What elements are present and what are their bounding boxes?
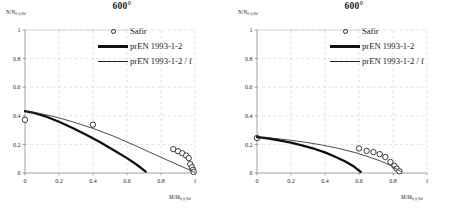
chart-panel-right: 600° N/Nfi,θ,Rd M/Mfi,θ,Rd 00.20.40.60.8…: [232, 0, 464, 216]
thick-line-icon: [328, 45, 362, 47]
thin-line-icon: [328, 61, 362, 62]
y-tick-label: 1: [250, 27, 253, 33]
x-tick-label: 0.2: [287, 178, 295, 184]
x-tick-label: 0.8: [157, 178, 165, 184]
y-tick-label: 0.6: [245, 84, 253, 90]
x-tick-label: 0.6: [123, 178, 131, 184]
thick-line-icon: [96, 45, 130, 47]
legend-item-pren: prEN 1993-1-2: [96, 39, 192, 54]
data-point-safir: [22, 117, 27, 122]
data-point-safir: [186, 155, 191, 160]
y-tick-label: 0.2: [13, 142, 21, 148]
chart-panel-left: 600° N/Nfi,θ,Rd M/Mfi,θ,Rd 00.20.40.60.8…: [0, 0, 232, 216]
legend-label-safir: Safir: [130, 27, 147, 36]
legend-item-pren: prEN 1993-1-2: [328, 39, 424, 54]
legend-item-safir: Safir: [96, 24, 192, 39]
curve-pren: [25, 111, 146, 171]
x-tick-label: 0.6: [355, 178, 363, 184]
y-tick-label: 0.6: [13, 84, 21, 90]
curve-pren: [257, 137, 361, 172]
y-tick-label: 0.2: [245, 142, 253, 148]
legend-label-pren: prEN 1993-1-2: [130, 42, 182, 51]
y-tick-label: 0.8: [13, 56, 21, 62]
legend-label-safir: Safir: [362, 27, 379, 36]
x-tick-label: 0.4: [321, 178, 329, 184]
legend-label-pren-f: prEN 1993-1-2 / f: [362, 57, 424, 66]
y-tick-label: 1: [18, 27, 21, 33]
legend-item-pren-f: prEN 1993-1-2 / f: [96, 54, 192, 69]
data-point-safir: [356, 146, 361, 151]
y-tick-label: 0.4: [245, 113, 253, 119]
legend-right: Safir prEN 1993-1-2 prEN 1993-1-2 / f: [328, 24, 424, 69]
curve-pren-f: [25, 111, 195, 172]
legend-item-pren-f: prEN 1993-1-2 / f: [328, 54, 424, 69]
circle-marker-icon: [96, 29, 130, 34]
thin-line-icon: [96, 61, 130, 62]
legend-label-pren: prEN 1993-1-2: [362, 42, 414, 51]
data-point-safir: [377, 151, 382, 156]
x-tick-label: 0: [24, 178, 27, 184]
x-tick-label: 0.4: [89, 178, 97, 184]
legend-left: Safir prEN 1993-1-2 prEN 1993-1-2 / f: [96, 24, 192, 69]
y-tick-label: 0.4: [13, 113, 21, 119]
circle-marker-icon: [328, 29, 362, 34]
x-tick-label: 1: [426, 178, 429, 184]
data-point-safir: [364, 148, 369, 153]
y-tick-label: 0: [18, 170, 21, 176]
data-point-safir: [371, 149, 376, 154]
legend-label-pren-f: prEN 1993-1-2 / f: [130, 57, 192, 66]
figure-row: 600° N/Nfi,θ,Rd M/Mfi,θ,Rd 00.20.40.60.8…: [0, 0, 464, 216]
y-tick-label: 0: [250, 170, 253, 176]
x-tick-label: 0.8: [389, 178, 397, 184]
x-tick-label: 1: [194, 178, 197, 184]
data-point-safir: [90, 122, 95, 127]
x-tick-label: 0: [256, 178, 259, 184]
x-tick-label: 0.2: [55, 178, 63, 184]
legend-item-safir: Safir: [328, 24, 424, 39]
data-point-safir: [383, 154, 388, 159]
y-tick-label: 0.8: [245, 56, 253, 62]
